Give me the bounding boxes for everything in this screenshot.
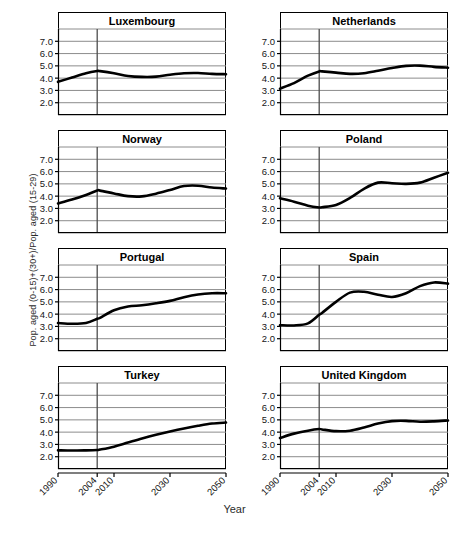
y-axis-tick-label: 5.0 xyxy=(262,414,275,425)
y-axis-tick-label: 5.0 xyxy=(40,296,53,307)
y-axis-tick-label: 5.0 xyxy=(262,296,275,307)
y-axis-tick-label: 6.0 xyxy=(40,284,53,295)
y-axis-tick-label: 7.0 xyxy=(262,390,275,401)
panel-turkey: Turkey2.03.04.05.06.07.01990200420102030… xyxy=(28,366,230,509)
y-axis-tick-label: 6.0 xyxy=(262,166,275,177)
y-axis-tick-label: 7.0 xyxy=(262,154,275,165)
y-axis-tick-label: 6.0 xyxy=(40,48,53,59)
y-axis-tick-label: 3.0 xyxy=(262,85,275,96)
y-axis-tick-label: 7.0 xyxy=(40,272,53,283)
panel-title: Norway xyxy=(122,133,163,145)
y-axis-tick-label: 2.0 xyxy=(262,97,275,108)
y-axis-tick-label: 2.0 xyxy=(40,333,53,344)
x-axis-tick-label: 1990 xyxy=(37,475,60,498)
y-axis-tick-label: 4.0 xyxy=(40,309,53,320)
x-axis-label: Year xyxy=(0,503,469,515)
series-line xyxy=(58,293,226,324)
y-axis-tick-label: 6.0 xyxy=(262,402,275,413)
y-axis-tick-label: 3.0 xyxy=(262,439,275,450)
panel-title: United Kingdom xyxy=(322,369,407,381)
panel-united-kingdom: United Kingdom2.03.04.05.06.07.019902004… xyxy=(250,366,452,509)
y-axis-tick-label: 3.0 xyxy=(262,203,275,214)
panel-norway: Norway2.03.04.05.06.07.0 xyxy=(28,130,230,243)
panel-title: Netherlands xyxy=(332,15,396,27)
y-axis-tick-label: 6.0 xyxy=(40,166,53,177)
y-axis-tick-label: 6.0 xyxy=(262,284,275,295)
y-axis-tick-label: 7.0 xyxy=(262,272,275,283)
y-axis-tick-label: 3.0 xyxy=(40,439,53,450)
panel-chart-turkey: Turkey2.03.04.05.06.07.01990200420102030… xyxy=(28,366,230,509)
panel-chart-luxembourg: Luxembourg2.03.04.05.06.07.0 xyxy=(28,12,230,125)
y-axis-tick-label: 4.0 xyxy=(40,191,53,202)
y-axis-tick-label: 4.0 xyxy=(262,309,275,320)
y-axis-tick-label: 3.0 xyxy=(262,321,275,332)
series-line xyxy=(58,71,226,82)
panel-title: Turkey xyxy=(124,369,160,381)
panel-frame xyxy=(281,13,448,115)
x-axis-tick-label: 2010 xyxy=(93,475,116,498)
panel-title: Luxembourg xyxy=(109,15,176,27)
series-line xyxy=(280,420,448,438)
y-axis-tick-label: 4.0 xyxy=(262,427,275,438)
series-line xyxy=(58,423,226,451)
panel-frame xyxy=(59,13,226,115)
y-axis-tick-label: 4.0 xyxy=(262,73,275,84)
y-axis-tick-label: 2.0 xyxy=(262,215,275,226)
y-axis-tick-label: 2.0 xyxy=(262,451,275,462)
figure-small-multiples-line-charts: Pop. aged (0-15)+(30+)/Pop. aged (15-29)… xyxy=(0,0,469,535)
y-axis-tick-label: 6.0 xyxy=(262,48,275,59)
y-axis-tick-label: 2.0 xyxy=(40,215,53,226)
y-axis-tick-label: 5.0 xyxy=(40,414,53,425)
panel-frame xyxy=(59,131,226,233)
panel-luxembourg: Luxembourg2.03.04.05.06.07.0 xyxy=(28,12,230,125)
y-axis-tick-label: 5.0 xyxy=(40,60,53,71)
y-axis-tick-label: 7.0 xyxy=(40,36,53,47)
x-axis-tick-label: 1990 xyxy=(259,475,282,498)
panel-chart-poland: Poland2.03.04.05.06.07.0 xyxy=(250,130,452,243)
panel-chart-norway: Norway2.03.04.05.06.07.0 xyxy=(28,130,230,243)
y-axis-tick-label: 4.0 xyxy=(40,73,53,84)
x-axis-tick-label: 2030 xyxy=(371,475,394,498)
panel-title: Portugal xyxy=(120,251,165,263)
y-axis-tick-label: 3.0 xyxy=(40,203,53,214)
x-axis-tick-label: 2030 xyxy=(149,475,172,498)
panel-chart-spain: Spain2.03.04.05.06.07.0 xyxy=(250,248,452,361)
y-axis-tick-label: 2.0 xyxy=(262,333,275,344)
y-axis-tick-label: 7.0 xyxy=(40,390,53,401)
y-axis-tick-label: 7.0 xyxy=(40,154,53,165)
y-axis-tick-label: 5.0 xyxy=(40,178,53,189)
y-axis-tick-label: 5.0 xyxy=(262,178,275,189)
panel-portugal: Portugal2.03.04.05.06.07.0 xyxy=(28,248,230,361)
y-axis-tick-label: 7.0 xyxy=(262,36,275,47)
panel-chart-united-kingdom: United Kingdom2.03.04.05.06.07.019902004… xyxy=(250,366,452,509)
panel-frame xyxy=(59,249,226,351)
y-axis-tick-label: 2.0 xyxy=(40,97,53,108)
y-axis-tick-label: 3.0 xyxy=(40,321,53,332)
y-axis-tick-label: 5.0 xyxy=(262,60,275,71)
y-axis-tick-label: 4.0 xyxy=(262,191,275,202)
series-line xyxy=(280,282,448,325)
panel-frame xyxy=(281,367,448,469)
panel-chart-netherlands: Netherlands2.03.04.05.06.07.0 xyxy=(250,12,452,125)
x-axis-tick-label: 2050 xyxy=(205,475,228,498)
panel-chart-portugal: Portugal2.03.04.05.06.07.0 xyxy=(28,248,230,361)
y-axis-tick-label: 6.0 xyxy=(40,402,53,413)
y-axis-tick-label: 4.0 xyxy=(40,427,53,438)
series-line xyxy=(58,186,226,204)
panel-grid: Luxembourg2.03.04.05.06.07.0Netherlands2… xyxy=(28,12,469,492)
y-axis-tick-label: 3.0 xyxy=(40,85,53,96)
panel-title: Poland xyxy=(346,133,383,145)
series-line xyxy=(280,66,448,89)
panel-frame xyxy=(281,249,448,351)
y-axis-tick-label: 2.0 xyxy=(40,451,53,462)
panel-netherlands: Netherlands2.03.04.05.06.07.0 xyxy=(250,12,452,125)
series-line xyxy=(280,173,448,208)
x-axis-tick-label: 2010 xyxy=(315,475,338,498)
panel-poland: Poland2.03.04.05.06.07.0 xyxy=(250,130,452,243)
panel-title: Spain xyxy=(349,251,379,263)
x-axis-tick-label: 2050 xyxy=(427,475,450,498)
panel-frame xyxy=(59,367,226,469)
panel-spain: Spain2.03.04.05.06.07.0 xyxy=(250,248,452,361)
